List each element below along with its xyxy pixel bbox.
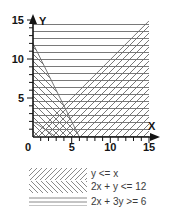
legend-label-2x-y-le-12: 2x + y <= 12 [91,181,147,192]
legend-swatch-2x-3y-ge-6 [29,196,87,206]
y-tick-label-15: 15 [12,14,24,26]
x-axis-ticks [41,137,149,143]
legend-label-2x-3y-ge-6: 2x + 3y >= 6 [91,196,147,207]
legend: y <= x 2x + y <= 12 2x + 3y >= 6 [29,168,147,207]
x-axis-arrow [150,133,160,141]
constraint-plot-figure: 15 10 5 0 5 10 15 Y X y <= x 2x + y <= 1… [0,0,170,223]
legend-swatch-2x-y-le-12 [29,181,87,193]
plot-svg: 15 10 5 0 5 10 15 Y X y <= x 2x + y <= 1… [0,0,170,223]
y-axis-ticks [27,20,33,129]
legend-swatch-y-le-x [29,168,87,180]
x-axis-label: X [148,120,156,132]
x-tick-label-15: 15 [143,141,155,153]
y-tick-label-5: 5 [18,92,24,104]
y-tick-label-10: 10 [12,53,24,65]
y-axis-arrow [29,14,37,24]
x-tick-label-5: 5 [69,141,75,153]
x-tick-label-10: 10 [104,141,116,153]
y-axis-label: Y [39,15,47,27]
legend-label-y-le-x: y <= x [91,168,118,179]
origin-label: 0 [25,141,31,153]
